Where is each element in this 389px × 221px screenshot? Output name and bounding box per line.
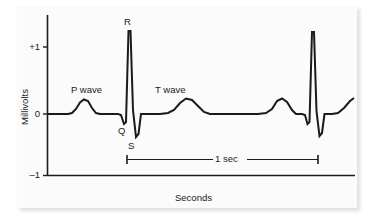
annotation-s-wave: S [128,141,134,151]
y-tick-label-minus1: –1 [24,170,40,180]
y-tick-label-plus1: +1 [24,42,40,52]
annotation-q-wave: Q [118,126,125,136]
annotation-r-wave: R [124,17,131,27]
ecg-figure: +1 0 –1 Millivolts Seconds P wave R Q S … [0,0,389,221]
y-axis-title: Millivolts [20,89,30,125]
annotation-t-wave: T wave [155,85,185,95]
x-axis-title: Seconds [175,193,212,203]
annotation-interval-1sec: 1 sec [215,154,238,164]
annotation-p-wave: P wave [71,85,102,95]
ecg-plot [0,0,389,221]
